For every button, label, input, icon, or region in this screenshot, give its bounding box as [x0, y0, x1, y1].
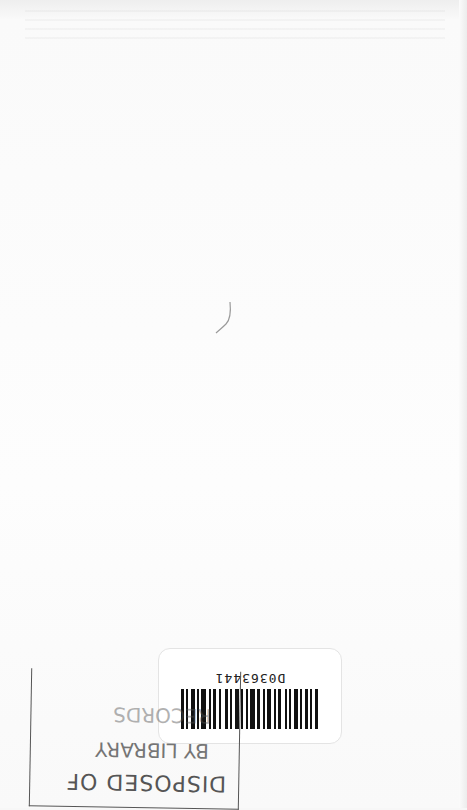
stamp-line-1: DISPOSED OF	[30, 768, 238, 797]
stamp-line-3: RECORDS	[31, 701, 239, 729]
pencil-mark-icon	[214, 300, 234, 335]
disposal-stamp: DISPOSED OF BY LIBRARY RECORDS	[29, 668, 241, 810]
bleed-through-text	[25, 10, 445, 40]
stamp-line-2: BY LIBRARY	[31, 736, 239, 764]
page-edge-shadow	[459, 0, 467, 808]
